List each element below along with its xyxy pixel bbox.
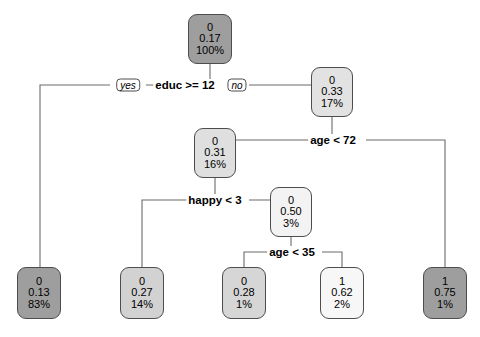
edge-age72-right-to-leaf-075 bbox=[366, 140, 445, 267]
split-label-age35[interactable]: age < 35 bbox=[267, 246, 317, 258]
tree-node-age72-left[interactable]: 0 0.31 16% bbox=[194, 128, 236, 178]
edge-happy3-left-to-leaf-027 bbox=[142, 200, 182, 267]
tree-leaf-002-class1[interactable]: 1 0.62 2% bbox=[320, 267, 364, 319]
tree-leaf-001-class1[interactable]: 1 0.75 1% bbox=[423, 267, 467, 319]
node-percent: 14% bbox=[131, 299, 153, 311]
edge-age35-left-to-leaf-028 bbox=[244, 252, 262, 267]
node-percent: 1% bbox=[236, 299, 252, 311]
branch-label-yes[interactable]: yes bbox=[116, 79, 140, 92]
split-label-educ[interactable]: educ >= 12 bbox=[153, 79, 216, 91]
tree-leaf-014[interactable]: 0 0.27 14% bbox=[120, 267, 164, 319]
node-percent: 1% bbox=[437, 299, 453, 311]
edge-yes-to-leaf-083 bbox=[40, 85, 110, 267]
branch-label-no[interactable]: no bbox=[227, 79, 246, 92]
tree-node-happy3-right[interactable]: 0 0.50 3% bbox=[270, 187, 312, 237]
node-percent: 2% bbox=[334, 299, 350, 311]
node-percent: 83% bbox=[28, 299, 50, 311]
decision-tree-figure: 0 0.17 100% 0 0.33 17% 0 0.31 16% 0 0.50… bbox=[0, 0, 480, 337]
node-percent: 100% bbox=[196, 45, 224, 57]
split-label-happy[interactable]: happy < 3 bbox=[186, 194, 243, 206]
node-percent: 16% bbox=[204, 159, 226, 171]
tree-node-root[interactable]: 0 0.17 100% bbox=[188, 14, 232, 64]
tree-leaf-001-class0[interactable]: 0 0.28 1% bbox=[222, 267, 266, 319]
node-percent: 17% bbox=[321, 98, 343, 110]
edge-age35-right-to-leaf-062 bbox=[322, 252, 342, 267]
split-label-age72[interactable]: age < 72 bbox=[308, 134, 358, 146]
node-percent: 3% bbox=[283, 218, 299, 230]
tree-leaf-083[interactable]: 0 0.13 83% bbox=[17, 267, 61, 319]
tree-node-educ-no[interactable]: 0 0.33 17% bbox=[311, 67, 353, 117]
